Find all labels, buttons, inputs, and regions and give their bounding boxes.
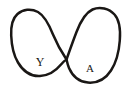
figure-canvas: Y A — [0, 0, 129, 86]
hand-drawn-loops-figure: Y A — [0, 0, 129, 86]
region-label-a: A — [86, 62, 94, 74]
region-label-y: Y — [36, 55, 45, 69]
